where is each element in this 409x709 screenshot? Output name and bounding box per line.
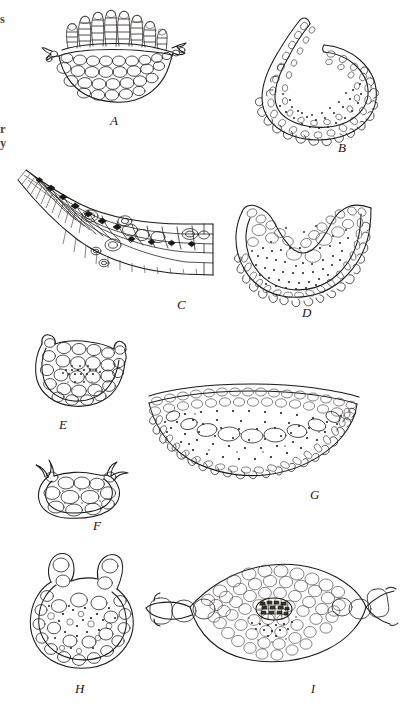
- illustration-plate: s r y: [0, 0, 409, 709]
- figure-label-a: A: [110, 113, 118, 129]
- figure-label-f: F: [93, 518, 101, 534]
- figure-label-c: C: [177, 297, 186, 313]
- figure-label-b: B: [338, 140, 346, 156]
- figure-g: [145, 378, 365, 490]
- figure-label-g: G: [310, 487, 320, 503]
- figure-i: [146, 545, 398, 685]
- margin-fragment-low: y: [0, 136, 6, 151]
- figure-label-d: D: [302, 305, 312, 321]
- margin-fragment-mid: r: [0, 122, 6, 137]
- figure-c: [8, 168, 213, 298]
- margin-fragment-top: s: [0, 12, 5, 27]
- figure-f: [32, 455, 132, 523]
- figure-b: [240, 14, 405, 146]
- figure-d: [228, 196, 398, 306]
- figure-a: [40, 4, 190, 119]
- figure-label-h: H: [75, 681, 85, 697]
- figure-label-i: I: [311, 682, 315, 697]
- figure-h: [25, 548, 143, 678]
- figure-label-e: E: [59, 417, 67, 433]
- figure-e: [30, 330, 135, 415]
